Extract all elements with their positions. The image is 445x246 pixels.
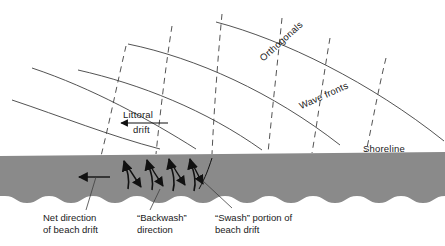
caption-swash-line2: beach drift (215, 224, 292, 236)
wave-fronts-group (12, 22, 444, 150)
label-shoreline: Shoreline (363, 143, 405, 155)
caption-swash-line1: “Swash” portion of (215, 212, 292, 224)
caption-net-direction-line1: Net direction (43, 212, 98, 224)
diagram-canvas (0, 0, 445, 246)
orthogonal-6 (366, 58, 386, 152)
label-littoral: Littoral (123, 109, 153, 121)
orthogonal-2 (156, 26, 172, 154)
caption-backwash-line1: “Backwash” (137, 212, 187, 224)
beach-band (0, 152, 445, 203)
wave-front-3 (78, 70, 262, 150)
coastal-drift-diagram: Orthogonals Wave fronts Shoreline Littor… (0, 0, 445, 246)
orthogonal-1 (101, 46, 126, 156)
caption-net-direction-line2: of beach drift (43, 224, 98, 236)
caption-net-direction: Net direction of beach drift (43, 212, 98, 236)
caption-backwash-line2: direction (137, 224, 187, 236)
orthogonal-3 (212, 14, 222, 154)
caption-backwash: “Backwash” direction (137, 212, 187, 236)
caption-swash: “Swash” portion of beach drift (215, 212, 292, 236)
wave-front-2 (32, 68, 196, 149)
label-drift: drift (133, 124, 150, 136)
